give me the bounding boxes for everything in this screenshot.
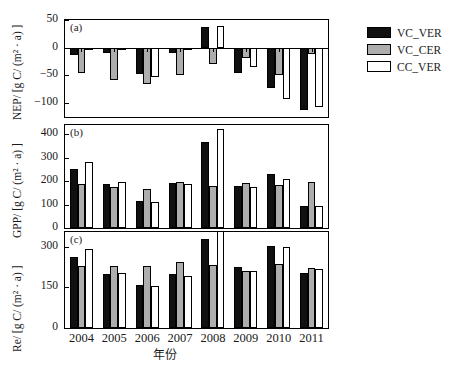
panel-b: (b) [64, 124, 329, 229]
legend-item-vc_ver: VC_VER [367, 25, 452, 40]
bar-vc_ver-2010 [267, 246, 275, 328]
bar-cc_ver-2007 [184, 276, 192, 328]
bar-vc_cer-2010 [275, 48, 283, 76]
y-tick-label: 0 [0, 40, 58, 52]
legend-label-vc_cer: VC_CER [397, 44, 441, 56]
legend-item-vc_cer: VC_CER [367, 42, 452, 57]
legend: VC_VERVC_CERCC_VER [367, 25, 452, 76]
bar-vc_ver-2011 [300, 48, 308, 110]
y-tick-label: −50 [0, 67, 58, 79]
bar-cc_ver-2004 [85, 162, 93, 228]
bar-vc_ver-2007 [169, 274, 177, 328]
bar-cc_ver-2010 [283, 48, 291, 99]
bar-vc_ver-2011 [300, 273, 308, 328]
bar-cc_ver-2005 [118, 182, 126, 228]
x-tick-mark [279, 48, 280, 52]
bar-vc_ver-2006 [136, 201, 144, 228]
x-tick-mark [114, 48, 115, 52]
bar-vc_cer-2006 [143, 266, 151, 328]
bar-vc_cer-2011 [308, 182, 316, 228]
bar-cc_ver-2010 [283, 179, 291, 228]
legend-label-vc_ver: VC_VER [397, 27, 442, 39]
bar-vc_ver-2004 [70, 48, 78, 55]
y-tick-label: 50 [0, 12, 58, 24]
bar-vc_cer-2008 [209, 186, 217, 228]
bar-vc_cer-2005 [110, 187, 118, 228]
bar-cc_ver-2006 [151, 202, 159, 228]
bar-vc_cer-2005 [110, 48, 118, 80]
bar-cc_ver-2004 [85, 249, 93, 328]
bar-vc_ver-2006 [136, 48, 144, 74]
bar-vc_ver-2009 [234, 48, 242, 73]
y-tick-label: 300 [0, 150, 58, 162]
panel-a-plot [65, 20, 328, 117]
bar-cc_ver-2009 [250, 271, 258, 328]
legend-swatch-vc_cer [367, 44, 391, 55]
y-tick-label: 0 [0, 320, 58, 332]
bar-vc_ver-2005 [103, 274, 111, 328]
bar-vc_ver-2010 [267, 48, 275, 88]
bar-cc_ver-2011 [315, 269, 323, 328]
bar-cc_ver-2005 [118, 273, 126, 328]
bar-cc_ver-2011 [315, 48, 323, 107]
bar-vc_cer-2009 [242, 183, 250, 228]
bar-vc_ver-2006 [136, 285, 144, 328]
panel-a-tag: (a) [70, 21, 82, 33]
bar-cc_ver-2009 [250, 48, 258, 67]
bar-vc_ver-2009 [234, 267, 242, 328]
bar-vc_ver-2004 [70, 169, 78, 228]
y-tick-label: 0 [0, 220, 58, 232]
bar-vc_cer-2006 [143, 189, 151, 228]
bar-vc_cer-2010 [275, 264, 283, 328]
legend-swatch-vc_ver [367, 27, 391, 38]
panel-b-plot [65, 125, 328, 228]
panel-c: (c) [64, 231, 329, 329]
y-tick-mark [65, 134, 69, 135]
x-tick-mark [147, 48, 148, 52]
bar-vc_ver-2008 [201, 142, 209, 228]
bar-vc_cer-2005 [110, 266, 118, 328]
bar-cc_ver-2010 [283, 247, 291, 328]
bar-vc_ver-2009 [234, 186, 242, 228]
bar-cc_ver-2009 [250, 187, 258, 228]
panel-c-plot [65, 232, 328, 328]
x-tick-mark [81, 48, 82, 52]
bar-cc_ver-2008 [217, 26, 225, 48]
bar-vc_ver-2008 [201, 239, 209, 328]
y-tick-mark [65, 20, 69, 21]
bar-vc_ver-2008 [201, 27, 209, 48]
x-tick-mark [213, 48, 214, 52]
y-tick-mark [65, 247, 69, 248]
bar-vc_ver-2010 [267, 174, 275, 228]
x-axis-label-2011: 2011 [287, 331, 336, 346]
bar-vc_ver-2007 [169, 183, 177, 228]
y-tick-mark [65, 287, 69, 288]
bar-cc_ver-2011 [315, 206, 323, 228]
bar-vc_cer-2004 [78, 266, 86, 328]
bar-cc_ver-2007 [184, 184, 192, 228]
bar-cc_ver-2006 [151, 286, 159, 328]
legend-item-cc_ver: CC_VER [367, 59, 452, 74]
bar-vc_ver-2005 [103, 184, 111, 228]
bar-vc_cer-2007 [176, 48, 184, 75]
y-tick-label: 100 [0, 197, 58, 209]
bar-vc_cer-2010 [275, 185, 283, 228]
y-tick-mark [65, 181, 69, 182]
legend-label-cc_ver: CC_VER [397, 61, 441, 73]
x-axis-title: 年份 [0, 345, 391, 362]
y-tick-mark [65, 205, 69, 206]
figure-root: NEP/ [g C/ (m² · a) ] GPP/ [g C/ (m² · a… [0, 0, 452, 367]
y-tick-mark [65, 158, 69, 159]
y-tick-mark [65, 103, 69, 104]
bar-vc_ver-2004 [70, 257, 78, 328]
panel-c-tag: (c) [70, 233, 82, 245]
bar-vc_ver-2011 [300, 206, 308, 228]
y-tick-label: 400 [0, 126, 58, 138]
x-tick-mark [312, 48, 313, 52]
bar-vc_cer-2008 [209, 265, 217, 328]
bar-cc_ver-2006 [151, 48, 159, 77]
y-tick-label: 150 [0, 279, 58, 291]
bar-vc_cer-2006 [143, 48, 151, 85]
y-tick-label: 200 [0, 173, 58, 185]
baseline [65, 48, 328, 49]
